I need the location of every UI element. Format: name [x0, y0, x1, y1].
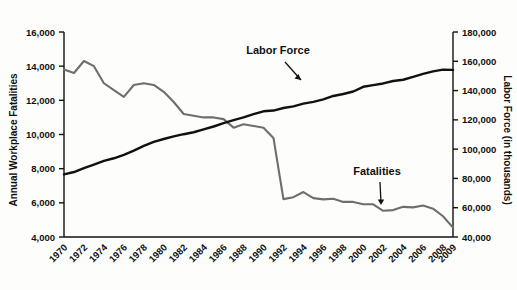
right-axis-tick-label: 100,000 — [462, 144, 496, 155]
left-axis-tick-label: 6,000 — [31, 197, 55, 208]
right-axis-tick-label: 40,000 — [462, 232, 491, 243]
left-axis-tick-label: 4,000 — [31, 232, 55, 243]
annotation-labor-force-label: Labor Force — [246, 44, 310, 56]
chart-container: 4,0006,0008,00010,00012,00014,00016,000 … — [0, 0, 517, 290]
left-axis-tick-label: 16,000 — [26, 27, 55, 38]
right-axis-tick-label: 80,000 — [462, 173, 491, 184]
left-axis-tick-label: 12,000 — [26, 95, 55, 106]
right-axis-tick-label: 160,000 — [462, 56, 496, 67]
dual-axis-line-chart: 4,0006,0008,00010,00012,00014,00016,000 … — [0, 0, 517, 290]
left-axis-tick-label: 10,000 — [26, 129, 55, 140]
right-axis-tick-label: 180,000 — [462, 27, 496, 38]
right-axis-title: Labor Force (in thousands) — [502, 75, 513, 204]
left-axis-tick-label: 14,000 — [26, 61, 55, 72]
annotation-fatalities-label: Fatalities — [353, 165, 401, 177]
left-axis-title: Annual Workplace Fatalities — [8, 73, 19, 207]
right-axis-tick-label: 140,000 — [462, 85, 496, 96]
right-axis-tick-label: 60,000 — [462, 202, 491, 213]
right-axis-tick-label: 120,000 — [462, 114, 496, 125]
left-axis-tick-label: 8,000 — [31, 163, 55, 174]
